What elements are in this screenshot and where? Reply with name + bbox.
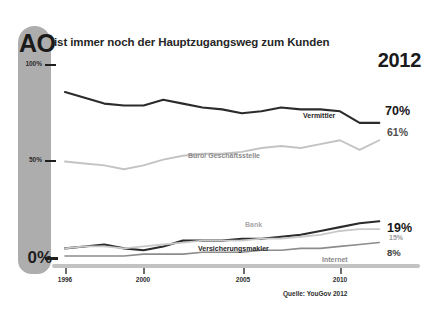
series-label-vermittler: Vermittler xyxy=(303,112,335,119)
series-label-bank: Bank xyxy=(245,221,262,228)
callout-buero-value: 61% xyxy=(387,126,408,138)
x-axis-bar xyxy=(52,264,420,268)
y-tick-label-100: 100% xyxy=(12,60,42,67)
series-label-internet: Internet xyxy=(322,256,348,263)
x-tick-label-2005: 2005 xyxy=(236,276,250,283)
callout-internet-value: 8% xyxy=(387,247,401,258)
x-tick-mark-2005 xyxy=(243,268,245,274)
callout-versicherungsmakler-value: 19% xyxy=(387,221,412,235)
chart-container: AO ist immer noch der Hauptzugangsweg zu… xyxy=(0,0,435,314)
year-badge: 2012 xyxy=(378,49,421,72)
callout-vermittler-value: 70% xyxy=(385,104,410,118)
y-tick-dash-100 xyxy=(45,64,56,66)
x-tick-mark-2000 xyxy=(143,268,145,274)
series-label-buero: Büro/ Geschäftsstelle xyxy=(188,152,260,159)
y-tick-label-50: 50% xyxy=(12,156,42,163)
x-tick-label-1996: 1996 xyxy=(58,276,72,283)
y-tick-dash-0 xyxy=(45,257,58,260)
series-label-versicherungsmakler: Versicherungsmakler xyxy=(198,245,269,252)
x-tick-label-2010: 2010 xyxy=(333,276,347,283)
callout-bank-value: 15% xyxy=(389,234,403,241)
source-attribution: Quelle: YouGov 2012 xyxy=(283,290,347,297)
x-tick-label-2000: 2000 xyxy=(136,276,150,283)
y-tick-dash-50 xyxy=(45,160,56,162)
x-tick-mark-2010 xyxy=(340,268,342,274)
page-title: ist immer noch der Hauptzugangsweg zum K… xyxy=(54,36,329,48)
brand-mark-ao: AO xyxy=(19,31,56,56)
x-tick-mark-1996 xyxy=(65,268,67,274)
